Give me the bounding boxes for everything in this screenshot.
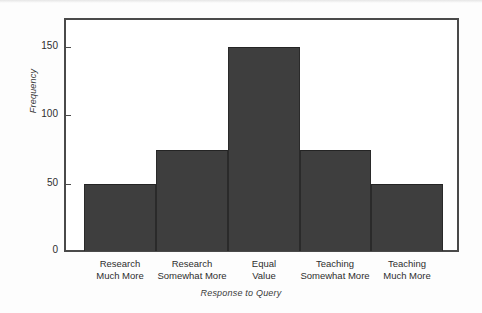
x-axis-title: Response to Query	[0, 288, 482, 298]
x-axis-label-line1: Teaching	[388, 258, 426, 269]
bar-research-much-more[interactable]	[84, 184, 156, 251]
bar-equal-value[interactable]	[228, 47, 300, 251]
bar-teaching-much-more[interactable]	[371, 184, 443, 251]
histogram-figure: Frequency 150 100 50 0 Research Much Mor…	[0, 0, 482, 313]
bar-research-somewhat-more[interactable]	[156, 150, 228, 251]
x-axis-label-teaching-much-more: Teaching Much More	[347, 258, 467, 282]
bar-teaching-somewhat-more[interactable]	[300, 150, 371, 251]
x-axis-label-line2: Much More	[347, 270, 467, 282]
x-axis-label-line1: Equal	[252, 258, 276, 269]
